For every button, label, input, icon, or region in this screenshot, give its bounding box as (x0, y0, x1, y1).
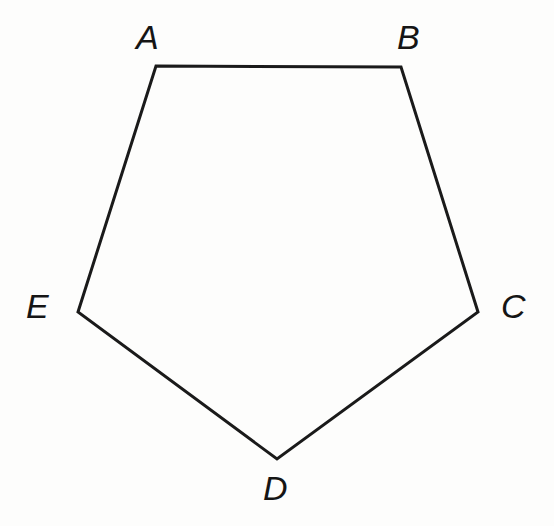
vertex-label-b: B (397, 20, 420, 54)
pentagon-figure: A B C D E (0, 0, 554, 526)
vertex-label-a: A (136, 20, 159, 54)
vertex-label-d: D (263, 471, 288, 505)
pentagon-canvas (0, 0, 554, 526)
vertex-label-e: E (26, 289, 49, 323)
figure-background (0, 0, 554, 526)
vertex-label-c: C (501, 289, 526, 323)
